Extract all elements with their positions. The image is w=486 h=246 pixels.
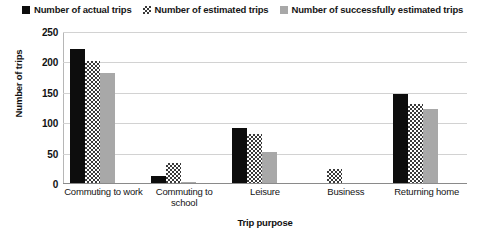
x-axis-title: Trip purpose (63, 217, 467, 228)
x-axis-category-labels: Commuting to work Commuting to school Le… (63, 186, 467, 208)
bar-estimated-trips (247, 134, 262, 184)
legend-item-estimated-trips: Number of estimated trips (143, 5, 269, 15)
plot-area (63, 32, 467, 184)
y-tick-200: 200 (22, 57, 58, 68)
bar-group-commuting-to-work (63, 32, 144, 184)
y-tick-0: 0 (22, 179, 58, 190)
y-axis-tick-labels: 250 200 150 100 50 0 (22, 20, 58, 184)
legend-label-estimated-trips: Number of estimated trips (155, 5, 269, 15)
bar-groups (63, 32, 467, 184)
bar-actual-trips (232, 128, 247, 184)
legend-label-successfully-estimated-trips: Number of successfully estimated trips (292, 5, 464, 15)
x-label-leisure: Leisure (225, 186, 306, 208)
legend-item-successfully-estimated-trips: Number of successfully estimated trips (280, 5, 464, 15)
legend-swatch-estimated-trips (143, 6, 151, 14)
bar-actual-trips (70, 49, 85, 184)
y-tick-150: 150 (22, 87, 58, 98)
x-axis-line (63, 183, 467, 184)
x-label-commuting-to-school: Commuting to school (144, 186, 225, 208)
bar-group-leisure (225, 32, 306, 184)
legend-label-actual-trips: Number of actual trips (34, 5, 132, 15)
legend-item-actual-trips: Number of actual trips (22, 5, 132, 15)
bar-group-commuting-to-school (144, 32, 225, 184)
bar-group-business (305, 32, 386, 184)
y-tick-100: 100 (22, 118, 58, 129)
bar-successfully-estimated-trips (262, 152, 277, 184)
bar-estimated-trips (327, 169, 342, 184)
bar-group-returning-home (386, 32, 467, 184)
bar-actual-trips (393, 94, 408, 184)
plot-wrapper: Number of trips 250 200 150 100 50 0 (0, 20, 486, 246)
legend-swatch-successfully-estimated-trips (280, 6, 288, 14)
bar-estimated-trips (166, 163, 181, 184)
chart-legend: Number of actual trips Number of estimat… (22, 2, 482, 17)
x-label-returning-home: Returning home (386, 186, 467, 208)
bar-estimated-trips (85, 61, 100, 184)
x-label-business: Business (305, 186, 386, 208)
bar-estimated-trips (408, 104, 423, 184)
y-tick-250: 250 (22, 27, 58, 38)
legend-swatch-actual-trips (22, 6, 30, 14)
bar-successfully-estimated-trips (423, 109, 438, 184)
y-tick-50: 50 (22, 148, 58, 159)
x-label-commuting-to-work: Commuting to work (63, 186, 144, 208)
bar-successfully-estimated-trips (100, 73, 115, 184)
bar-chart-figure: Number of actual trips Number of estimat… (0, 0, 486, 246)
